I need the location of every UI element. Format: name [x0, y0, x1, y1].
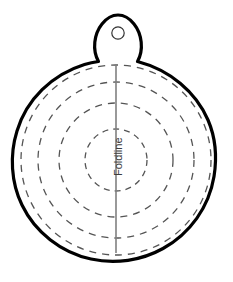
pattern-canvas: Foldline: [0, 0, 233, 282]
pattern-drawing: [0, 0, 233, 282]
hanger-hole-icon: [112, 27, 124, 39]
